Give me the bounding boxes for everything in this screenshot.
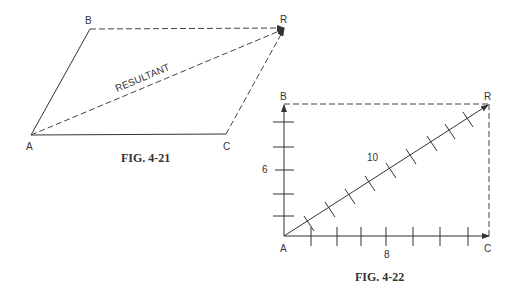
resultant-ar — [31, 29, 284, 135]
point-a-label: A — [280, 243, 287, 254]
fig-4-21: RESULTANT A B C R FIG. 4-21 — [26, 14, 287, 165]
resultant-magnitude-label: 10 — [367, 152, 379, 163]
fig-4-21-caption: FIG. 4-21 — [121, 151, 170, 165]
point-c-label: C — [223, 141, 230, 152]
resultant-label: RESULTANT — [114, 61, 172, 94]
point-b-label: B — [85, 15, 92, 26]
vector-diagrams: RESULTANT A B C R FIG. 4-21 — [0, 0, 520, 293]
point-c-label: C — [484, 243, 491, 254]
point-a-label: A — [26, 141, 33, 152]
point-b-label: B — [280, 91, 287, 102]
point-r-label: R — [280, 14, 287, 25]
vector-ac — [31, 134, 226, 135]
vector-ab — [31, 29, 90, 135]
point-r-label: R — [484, 91, 491, 102]
dashed-br — [90, 28, 284, 29]
vertical-magnitude-label: 6 — [262, 164, 268, 175]
horizontal-magnitude-label: 8 — [384, 249, 390, 260]
resultant-ar — [284, 105, 488, 236]
fig-4-22-caption: FIG. 4-22 — [355, 270, 404, 284]
resultant-scale-ticks — [304, 112, 473, 231]
fig-4-22: 6 8 10 A B C R FIG. 4-22 — [262, 91, 491, 284]
dashed-cr — [226, 29, 284, 134]
